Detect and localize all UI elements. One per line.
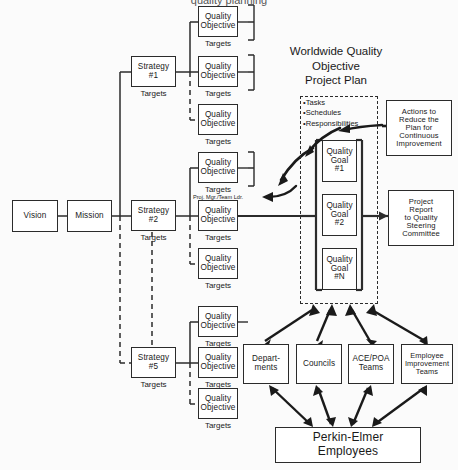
quality-objective-box[interactable]: Quality Objective: [198, 200, 238, 231]
quality-goal-1-box[interactable]: Quality Goal #1: [322, 140, 357, 182]
quality-objective-box[interactable]: Quality Objective: [198, 248, 238, 279]
quality-objective-line-2: Objective: [200, 120, 235, 129]
employees-line-2: Employees: [318, 445, 378, 459]
actions-line-5: Improvement: [396, 140, 441, 148]
councils-box[interactable]: Councils: [296, 344, 342, 384]
quality-goal-n-line-3: #N: [334, 273, 345, 282]
diagram-title-line-2: Objective: [272, 59, 400, 74]
departments-line-2: ments: [255, 364, 278, 373]
councils-line-1: Councils: [303, 360, 335, 369]
quality-objective-targets-caption: Targets: [196, 233, 240, 242]
quality-objective-targets-caption: Targets: [196, 185, 240, 194]
quality-goal-2-box[interactable]: Quality Goal #2: [322, 194, 357, 236]
strategy-1-targets-caption: Targets: [131, 89, 176, 98]
report-line-5: Committee: [402, 230, 440, 238]
quality-objective-line-2: Objective: [200, 322, 235, 331]
vision-label: Vision: [24, 212, 47, 221]
plan-bullet-tasks: •Tasks: [303, 98, 381, 108]
quality-objective-box[interactable]: Quality Objective: [198, 6, 238, 37]
arrowhead-plan-2: [278, 173, 288, 186]
employee-improvement-teams-box[interactable]: Employee Improvement Teams: [401, 344, 453, 384]
quality-objective-box[interactable]: Quality Objective: [198, 347, 238, 378]
departments-box[interactable]: Depart- ments: [243, 344, 289, 384]
quality-objective-targets-caption: Targets: [196, 137, 240, 146]
quality-goal-n-box[interactable]: Quality Goal #N: [322, 248, 357, 290]
plan-bullet-responsibilities: •Responsibilities: [303, 119, 381, 129]
quality-objective-targets-caption: Targets: [196, 89, 240, 98]
quality-objective-targets-caption: Targets: [196, 39, 240, 48]
quality-objective-box[interactable]: Quality Objective: [198, 104, 238, 135]
ace-poa-teams-box[interactable]: ACE/POA Teams: [348, 344, 394, 384]
mission-box[interactable]: Mission: [67, 200, 112, 232]
project-report-box[interactable]: Project Report to Quality Steering Commi…: [388, 190, 454, 246]
quality-objective-box[interactable]: Quality Objective: [198, 388, 238, 419]
strategy-5-box[interactable]: Strategy #5: [131, 347, 176, 378]
quality-objective-box[interactable]: Quality Objective: [198, 152, 238, 183]
strategy-2-box[interactable]: Strategy #2: [131, 200, 176, 231]
quality-objective-line-2: Objective: [200, 404, 235, 413]
strategy-2-line-2: #2: [149, 216, 158, 225]
eit-line-3: Teams: [416, 368, 438, 376]
strategy-5-targets-caption: Targets: [131, 380, 176, 389]
perkin-elmer-employees-box[interactable]: Perkin-Elmer Employees: [275, 427, 421, 463]
strategy-5-line-2: #5: [149, 363, 158, 372]
arrowhead-proj-mgr: [262, 192, 273, 202]
plan-bullet-schedules: •Schedules: [303, 108, 381, 118]
quality-objective-line-2: Objective: [200, 22, 235, 31]
quality-objective-targets-caption: Targets: [196, 421, 240, 430]
mission-label: Mission: [75, 212, 103, 221]
quality-objective-line-2: Objective: [200, 216, 235, 225]
vision-box[interactable]: Vision: [12, 200, 58, 232]
quality-goal-2-line-3: #2: [335, 219, 344, 228]
quality-objective-line-2: Objective: [200, 168, 235, 177]
diagram-title: Worldwide Quality Objective Project Plan: [272, 44, 400, 88]
quality-objective-box[interactable]: Quality Objective: [198, 56, 238, 87]
quality-objective-line-2: Objective: [200, 264, 235, 273]
plan-bullet-list: •Tasks •Schedules •Responsibilities: [303, 98, 381, 129]
diagram-title-line-1: Worldwide Quality: [272, 44, 400, 59]
quality-objective-line-2: Objective: [200, 72, 235, 81]
quality-objective-targets-caption: Targets: [196, 281, 240, 290]
quality-objective-line-2: Objective: [200, 363, 235, 372]
strategy-1-line-2: #1: [149, 72, 158, 81]
strategy-1-box[interactable]: Strategy #1: [131, 56, 176, 87]
quality-goal-1-line-3: #1: [335, 165, 344, 174]
ace-poa-line-2: Teams: [359, 364, 384, 373]
actions-to-reduce-plan-box[interactable]: Actions to Reduce the Plan for Continuou…: [386, 100, 452, 156]
arrowhead-to-report: [379, 212, 388, 221]
quality-objective-box[interactable]: Quality Objective: [198, 306, 238, 337]
diagram-canvas: quality planning: [0, 0, 458, 470]
diagram-title-line-3: Project Plan: [272, 73, 400, 88]
strategy-2-targets-caption: Targets: [131, 233, 176, 242]
employees-line-1: Perkin-Elmer: [313, 431, 384, 445]
